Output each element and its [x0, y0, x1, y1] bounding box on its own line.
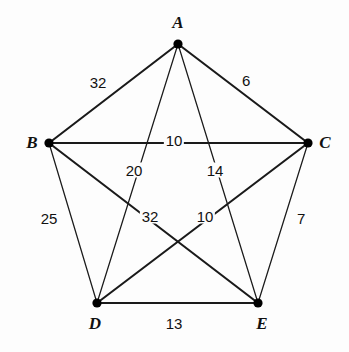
edge-weight-ab: 32 — [88, 75, 108, 90]
vertex-label-c: C — [319, 134, 330, 151]
vertex-dot-c — [303, 138, 312, 147]
edge-weight-text-ae: 14 — [205, 163, 225, 178]
edge-weight-ae: 14 — [205, 163, 225, 178]
edge-weight-bc: 10 — [164, 133, 184, 148]
edge-weight-text-ce: 7 — [295, 211, 307, 226]
vertex-dot-b — [44, 138, 53, 147]
edge-weight-cd: 10 — [195, 209, 215, 224]
vertex-label-e: E — [256, 315, 267, 332]
edge-weight-text-bd: 25 — [39, 211, 59, 226]
graph-canvas — [0, 0, 349, 352]
edge-weight-ad: 20 — [124, 163, 144, 178]
edge-weight-bd: 25 — [39, 211, 59, 226]
weighted-graph-figure: ABCDE326201410253210713 — [0, 0, 349, 352]
edge-weight-ce: 7 — [295, 211, 307, 226]
edge-weight-de: 13 — [164, 316, 184, 331]
edge-weight-text-ab: 32 — [88, 75, 108, 90]
edge-weight-text-be: 32 — [140, 209, 160, 224]
vertex-label-d: D — [89, 315, 101, 332]
vertices-group — [44, 39, 312, 307]
edge-weight-text-cd: 10 — [195, 209, 215, 224]
edge-weight-text-ad: 20 — [124, 163, 144, 178]
edge-ab — [49, 44, 178, 143]
vertex-dot-e — [253, 298, 262, 307]
vertex-dot-a — [173, 39, 182, 48]
vertex-label-b: B — [26, 134, 37, 151]
vertex-label-a: A — [172, 14, 183, 31]
edge-weight-ac: 6 — [240, 73, 252, 88]
edge-weight-text-ac: 6 — [240, 73, 252, 88]
edge-weight-text-de: 13 — [164, 316, 184, 331]
edge-weight-text-bc: 10 — [164, 133, 184, 148]
edge-ac — [178, 44, 308, 143]
edge-weight-be: 32 — [140, 209, 160, 224]
vertex-dot-d — [92, 298, 101, 307]
